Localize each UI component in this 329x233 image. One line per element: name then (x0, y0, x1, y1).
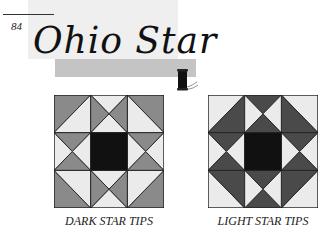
thread-spool-icon (177, 68, 199, 92)
header-rule (3, 14, 54, 15)
page-title: Ohio Star (33, 20, 217, 60)
page-number: 84 (11, 20, 22, 32)
caption-dark-star-tips: DARK STAR TIPS (44, 214, 174, 229)
dark-star-tips-diagram (54, 95, 164, 208)
caption-light-star-tips: LIGHT STAR TIPS (198, 214, 328, 229)
light-star-tips-diagram (208, 95, 318, 208)
quilt-block-dark-star-tips (54, 95, 164, 208)
quilt-block-light-star-tips (208, 95, 318, 208)
